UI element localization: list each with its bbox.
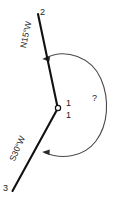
reflex-angle-arc (45, 54, 107, 157)
arc-arrowhead-bottom-icon (42, 150, 50, 155)
line-2-to-1 (38, 14, 57, 106)
diagram-figure (0, 0, 116, 204)
angle-arc-group (42, 54, 107, 157)
diagram-canvas: 2 3 1 1 N15°W S30°W ? (0, 0, 116, 204)
station-1-marker (55, 105, 60, 110)
unknown-angle-label: ? (92, 94, 97, 103)
station-label-1-upper: 1 (66, 99, 71, 108)
point-label-2: 2 (40, 8, 45, 17)
station-label-1-lower: 1 (66, 111, 71, 120)
point-label-3: 3 (3, 184, 8, 193)
